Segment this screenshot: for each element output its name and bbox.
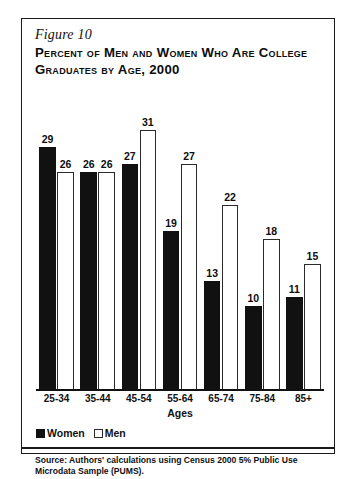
bar-men-75-84[interactable] (263, 239, 280, 389)
figure-container: Figure 10 Percent of Men and Women Who A… (21, 18, 335, 454)
bar-women-85+[interactable] (286, 297, 303, 389)
bar-women-75-84[interactable] (245, 306, 262, 389)
legend-swatch-men-icon (94, 429, 103, 438)
bar-group: 2626 (77, 97, 118, 389)
legend-label-men: Men (105, 427, 126, 439)
bar-women-25-34[interactable] (39, 147, 56, 389)
bar-value-label: 18 (258, 226, 285, 237)
bar-group: 1927 (159, 97, 200, 389)
bar-value-label: 15 (299, 251, 326, 262)
source-note: Source: Authors' calculations using Cens… (35, 455, 317, 477)
bar-women-65-74[interactable] (204, 281, 221, 389)
x-axis-tick-labels: 25-3435-4445-5455-6465-7475-8485+ (36, 393, 324, 407)
bar-women-35-44[interactable] (80, 172, 97, 389)
x-tick-25-34: 25-34 (36, 393, 77, 404)
figure-number: Figure 10 (35, 27, 92, 43)
x-tick-35-44: 35-44 (77, 393, 118, 404)
x-tick-55-64: 55-64 (159, 393, 200, 404)
bar-group: 1322 (201, 97, 242, 389)
bar-value-label: 27 (176, 151, 203, 162)
bar-value-label: 29 (34, 134, 61, 145)
x-axis-title: Ages (36, 407, 324, 419)
bar-men-85+[interactable] (304, 264, 321, 389)
bar-women-45-54[interactable] (122, 164, 139, 389)
bar-group: 1115 (283, 97, 324, 389)
x-axis-line (36, 389, 324, 391)
bar-group: 2926 (36, 97, 77, 389)
bar-men-35-44[interactable] (98, 172, 115, 389)
legend-item-men: Men (94, 427, 126, 439)
bar-men-65-74[interactable] (222, 205, 239, 389)
bar-men-55-64[interactable] (181, 164, 198, 389)
chart-legend: Women Men (36, 427, 126, 439)
x-tick-65-74: 65-74 (201, 393, 242, 404)
bar-men-25-34[interactable] (57, 172, 74, 389)
x-tick-45-54: 45-54 (118, 393, 159, 404)
legend-label-women: Women (47, 427, 85, 439)
bar-value-label: 22 (217, 192, 244, 203)
bar-value-label: 31 (135, 117, 162, 128)
plot-area: 2926262627311927132210181115 (36, 97, 324, 389)
bar-group: 1018 (242, 97, 283, 389)
x-tick-85+: 85+ (283, 393, 324, 404)
source-divider (22, 447, 334, 449)
bar-women-55-64[interactable] (163, 231, 180, 390)
legend-item-women: Women (36, 427, 85, 439)
chart-title: Percent of Men and Women Who Are College… (35, 45, 323, 78)
bars-layer: 2926262627311927132210181115 (36, 97, 324, 389)
x-tick-75-84: 75-84 (242, 393, 283, 404)
bar-men-45-54[interactable] (140, 130, 157, 389)
bar-group: 2731 (118, 97, 159, 389)
legend-swatch-women-icon (36, 429, 45, 438)
